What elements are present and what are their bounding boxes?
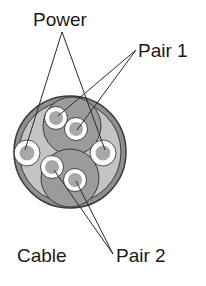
pair-1-label: Pair 1 [138, 40, 188, 61]
power-label: Power [33, 9, 88, 30]
cable-cross-section-diagram: Power Pair 1 Cable Pair 2 [0, 0, 206, 286]
pair-2-conductor-a [43, 158, 61, 176]
pair-2-bundle [41, 149, 100, 207]
pair-2-conductor-b [66, 171, 84, 189]
pair-2-label: Pair 2 [116, 245, 166, 266]
power-conductor-right [93, 143, 113, 163]
pair-1-conductor-a [47, 109, 65, 127]
power-conductor-left [17, 143, 37, 163]
cable-label: Cable [17, 245, 67, 266]
